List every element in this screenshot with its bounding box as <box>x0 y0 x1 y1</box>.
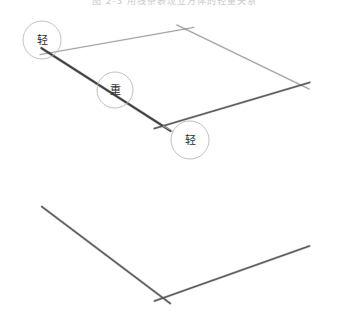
figure-page: 图 2-3 用线条表现立方体的轻重关系 轻重轻 <box>0 0 349 335</box>
cube-line-drawing <box>0 0 349 335</box>
cube-edge-bottom-front-to-bottom-right <box>155 246 310 301</box>
cube-edge-center-front-to-top-right <box>154 82 309 128</box>
annot-top-left-label: 轻 <box>37 35 48 46</box>
annot-middle-label: 重 <box>110 85 121 96</box>
cube-edge-bottom-left-to-bottom-front <box>42 207 170 304</box>
cube-edge-top-back-to-top-right <box>177 25 309 89</box>
cube-edge-top-left-to-top-back <box>40 27 194 54</box>
annot-center-front-label: 轻 <box>185 135 196 146</box>
cube-edge-top-left-to-center-front <box>41 48 170 131</box>
cube-edges <box>40 25 309 307</box>
